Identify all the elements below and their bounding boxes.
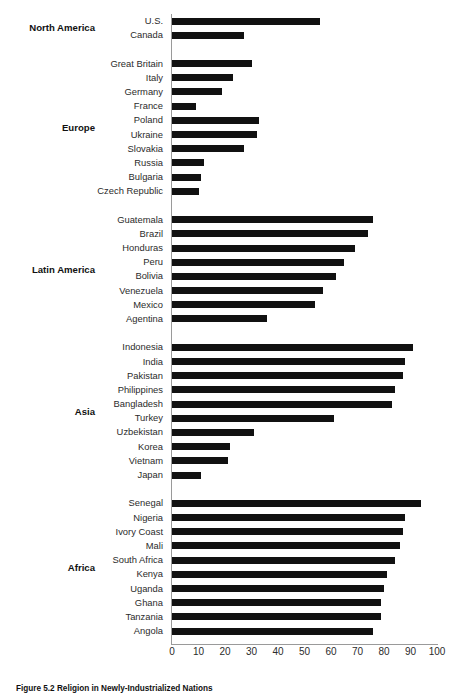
- bar-row: Mali: [0, 539, 460, 553]
- x-tick-label: 50: [299, 646, 310, 657]
- bar-row-label: Philippines: [23, 383, 163, 397]
- x-tick-label: 40: [272, 646, 283, 657]
- bar: [172, 259, 344, 266]
- bar-rows: U.S.CanadaGreat BritainItalyGermanyFranc…: [0, 14, 460, 638]
- bar-row-label: Brazil: [23, 227, 163, 241]
- bar: [172, 188, 199, 195]
- bar: [172, 74, 233, 81]
- bar-row: Germany: [0, 85, 460, 99]
- bar-row: Senegal: [0, 496, 460, 510]
- bar-row: Tanzania: [0, 610, 460, 624]
- bar: [172, 216, 373, 223]
- x-tick-label: 60: [325, 646, 336, 657]
- group-spacer: [0, 42, 460, 56]
- bar: [172, 301, 315, 308]
- bar-row-label: France: [23, 99, 163, 113]
- bar-row: Italy: [0, 71, 460, 85]
- group-label-north-america: North America: [0, 22, 95, 33]
- bar-row-label: Mexico: [23, 298, 163, 312]
- bar: [172, 401, 392, 408]
- bar: [172, 528, 403, 535]
- bar-row-label: Honduras: [23, 241, 163, 255]
- bar-row: Brazil: [0, 227, 460, 241]
- bar-row-label: Senegal: [23, 496, 163, 510]
- bar: [172, 472, 201, 479]
- bar-row-label: Venezuela: [23, 284, 163, 298]
- bar-row: Ivory Coast: [0, 525, 460, 539]
- x-tick-label: 20: [219, 646, 230, 657]
- bar-row: France: [0, 99, 460, 113]
- bar-row: Czech Republic: [0, 184, 460, 198]
- bar: [172, 571, 387, 578]
- bar-row: Venezuela: [0, 284, 460, 298]
- bar: [172, 230, 368, 237]
- bar-row: Pakistan: [0, 369, 460, 383]
- bar: [172, 159, 204, 166]
- x-tick-label: 10: [193, 646, 204, 657]
- bar: [172, 358, 405, 365]
- bar-row: Guatemala: [0, 213, 460, 227]
- bar-row: Vietnam: [0, 454, 460, 468]
- bar-row-label: India: [23, 355, 163, 369]
- bar-row: Russia: [0, 156, 460, 170]
- group-spacer: [0, 482, 460, 496]
- bar: [172, 287, 323, 294]
- bar: [172, 103, 196, 110]
- bar: [172, 500, 421, 507]
- bar-row-label: Indonesia: [23, 340, 163, 354]
- bar: [172, 415, 334, 422]
- bar-row-label: Pakistan: [23, 369, 163, 383]
- bar-row-label: Mali: [23, 539, 163, 553]
- bar-row-label: Korea: [23, 440, 163, 454]
- bar-row: Korea: [0, 440, 460, 454]
- bar-row-label: Guatemala: [23, 213, 163, 227]
- bar-row-label: Czech Republic: [23, 184, 163, 198]
- bar: [172, 344, 413, 351]
- bar-row: Ghana: [0, 596, 460, 610]
- x-tick-label: 0: [169, 646, 175, 657]
- x-axis-line: [171, 644, 438, 645]
- bar-row: India: [0, 355, 460, 369]
- bar: [172, 372, 403, 379]
- group-spacer: [0, 198, 460, 212]
- bar: [172, 117, 259, 124]
- bar-row-label: Uganda: [23, 582, 163, 596]
- bar: [172, 457, 228, 464]
- bar-row: Bulgaria: [0, 170, 460, 184]
- bar-row: Uganda: [0, 582, 460, 596]
- bar-row-label: Uzbekistan: [23, 425, 163, 439]
- bar: [172, 628, 373, 635]
- bar-row-label: Nigeria: [23, 511, 163, 525]
- bar: [172, 557, 395, 564]
- x-tick-label: 100: [429, 646, 446, 657]
- bar-row: Mexico: [0, 298, 460, 312]
- bar-row-label: Slovakia: [23, 142, 163, 156]
- bar: [172, 245, 355, 252]
- x-tick-label: 30: [246, 646, 257, 657]
- bar: [172, 585, 384, 592]
- bar: [172, 315, 267, 322]
- bar-row-label: Russia: [23, 156, 163, 170]
- bar-row: Slovakia: [0, 142, 460, 156]
- bar-row-label: Vietnam: [23, 454, 163, 468]
- bar-row-label: Ghana: [23, 596, 163, 610]
- x-tick-label: 70: [352, 646, 363, 657]
- bar-row-label: Agentina: [23, 312, 163, 326]
- bar: [172, 174, 201, 181]
- x-axis-tick-labels: 0102030405060708090100: [0, 646, 460, 662]
- bar-row-label: Ivory Coast: [23, 525, 163, 539]
- bar: [172, 613, 381, 620]
- group-label-latin-america: Latin America: [0, 264, 95, 275]
- x-tick-label: 80: [378, 646, 389, 657]
- bar-row-label: Great Britain: [23, 57, 163, 71]
- bar: [172, 18, 320, 25]
- bar: [172, 429, 254, 436]
- group-label-europe: Europe: [0, 122, 95, 133]
- group-spacer: [0, 326, 460, 340]
- bar: [172, 131, 257, 138]
- bar-row: Philippines: [0, 383, 460, 397]
- figure-caption: Figure 5.2 Religion in Newly-Industriali…: [16, 684, 446, 697]
- x-tick-label: 90: [405, 646, 416, 657]
- group-label-africa: Africa: [0, 562, 95, 573]
- bar: [172, 443, 230, 450]
